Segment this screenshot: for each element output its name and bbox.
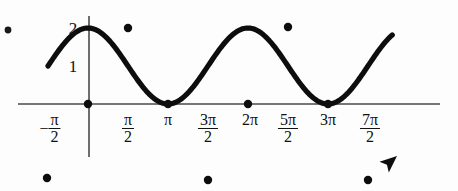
fraction-denominator: 2: [360, 129, 380, 145]
curve-arrowhead-icon: [379, 156, 397, 173]
x-axis-tick-label: 5π2: [278, 112, 298, 146]
tick-fraction: 7π2: [360, 112, 380, 146]
marked-point-dot: [324, 100, 332, 108]
fraction-denominator: 2: [122, 129, 134, 145]
marked-point-dot: [364, 176, 372, 184]
fraction-numerator: 7π: [360, 112, 380, 129]
x-axis-tick-label: −π2: [39, 112, 60, 146]
fraction-numerator: 3π: [198, 112, 218, 129]
fraction-numerator: π: [48, 112, 60, 129]
marked-point-dot: [284, 23, 292, 31]
x-axis-tick-label: 2π: [242, 112, 258, 128]
x-axis-tick-label: π: [164, 112, 172, 128]
tick-fraction: 5π2: [278, 112, 298, 146]
x-axis-tick-label: 7π2: [360, 112, 380, 146]
fraction-numerator: π: [122, 112, 134, 129]
bullet-dot-icon: [5, 27, 12, 34]
x-axis-tick-label: 3π2: [198, 112, 218, 146]
tick-fraction: π2: [122, 112, 134, 146]
fraction-denominator: 2: [48, 129, 60, 145]
fraction-denominator: 2: [278, 129, 298, 145]
fraction-numerator: 5π: [278, 112, 298, 129]
y-axis-tick-label: 2: [69, 20, 78, 37]
marked-point-dot: [124, 24, 132, 32]
tick-fraction: 3π2: [198, 112, 218, 146]
x-axis-tick-label: π2: [122, 112, 134, 146]
sine-graph-figure: 21 −π2π2π3π22π5π23π7π2: [0, 0, 458, 191]
marked-point-dot: [164, 100, 172, 108]
tick-fraction: π2: [48, 112, 60, 146]
cosine-curve-path: [48, 28, 392, 104]
marked-point-dot: [84, 100, 92, 108]
marked-point-dot: [43, 174, 51, 182]
marked-point-dot: [244, 100, 252, 108]
x-axis-tick-label: 3π: [320, 112, 336, 128]
marked-point-dot: [204, 176, 212, 184]
y-axis-tick-label: 1: [69, 58, 78, 75]
fraction-denominator: 2: [198, 129, 218, 145]
tick-sign: −: [39, 121, 48, 137]
